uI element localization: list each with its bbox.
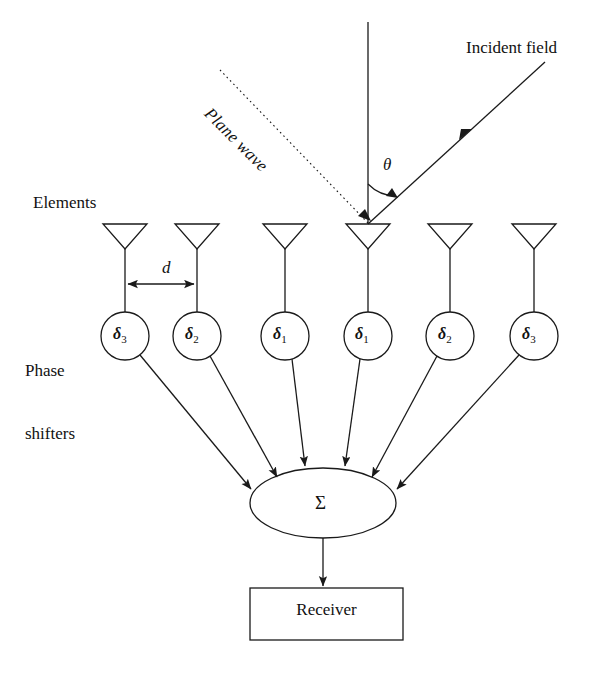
phase-shifter-symbol: δ	[355, 325, 363, 342]
phase-shifter-label: δ1	[355, 325, 369, 346]
incident-field-ray	[368, 62, 545, 224]
summer-symbol-label: Σ	[315, 492, 326, 514]
antenna-triangle	[512, 224, 556, 249]
array-element-6[interactable]	[397, 224, 558, 489]
phase-shifter-symbol: δ	[438, 325, 446, 342]
antenna-triangle	[346, 224, 390, 249]
feed-line-to-summer	[397, 355, 519, 489]
diagram-svg	[0, 0, 602, 686]
feed-line-to-summer	[210, 356, 277, 477]
phase-shifter-label: δ2	[185, 325, 199, 346]
receiver-label: Receiver	[250, 600, 403, 620]
phase-shifter-symbol: δ	[273, 325, 281, 342]
feed-line-to-summer	[292, 359, 305, 466]
phase-shifter-label: δ2	[438, 325, 452, 346]
elements-label: Elements	[33, 193, 96, 213]
theta-angle-label: θ	[383, 155, 391, 175]
phase-shifter-index: 1	[363, 333, 369, 345]
spacing-label: d	[162, 258, 171, 278]
phase-shifter-label: δ3	[522, 325, 536, 346]
phase-shifter-symbol: δ	[113, 325, 121, 342]
phase-shifter-index: 3	[530, 333, 536, 345]
phase-shifters-label-line2: shifters	[25, 423, 75, 444]
phase-shifters-label: Phase shifters	[25, 318, 75, 487]
figure-canvas: Elements Phase shifters Incident field P…	[0, 0, 602, 686]
phase-shifter-symbol: δ	[185, 325, 193, 342]
phase-shifter-index: 2	[446, 333, 452, 345]
feed-line-to-summer	[345, 359, 360, 466]
feed-line-to-summer	[372, 356, 437, 477]
feed-line-to-summer	[140, 355, 251, 489]
phase-shifter-label: δ3	[113, 325, 127, 346]
antenna-triangle	[175, 224, 219, 249]
antenna-triangle	[428, 224, 472, 249]
phase-shifter-index: 3	[121, 333, 127, 345]
phase-shifters-label-line1: Phase	[25, 360, 75, 381]
incident-field-label: Incident field	[466, 38, 557, 58]
theta-arc-arrowhead	[386, 188, 398, 198]
array-element-1[interactable]	[101, 224, 251, 489]
array-element-2[interactable]	[173, 224, 277, 477]
phase-shifter-index: 2	[193, 333, 199, 345]
phase-shifter-index: 1	[281, 333, 287, 345]
phase-shifter-symbol: δ	[522, 325, 530, 342]
antenna-triangle	[263, 224, 307, 249]
phase-shifter-label: δ1	[273, 325, 287, 346]
antenna-triangle	[103, 224, 147, 249]
